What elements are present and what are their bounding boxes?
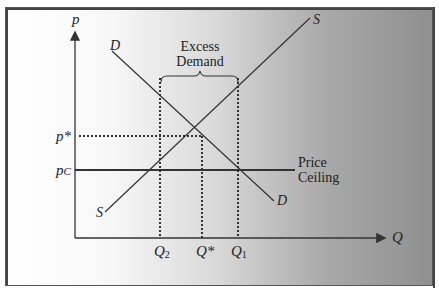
- demand-label-bottom: D: [276, 193, 287, 208]
- price-ceiling-label-line2: Ceiling: [298, 170, 339, 185]
- excess-demand-brace: [161, 71, 238, 82]
- x-axis-label: Q: [392, 229, 403, 245]
- q1-label: Q1: [231, 243, 247, 260]
- demand-label-top: D: [109, 38, 120, 53]
- y-axis-label: p: [71, 11, 80, 27]
- supply-demand-diagram: p Q D D S S p* pC Q2 Q* Q1 Excess Demand…: [0, 0, 439, 297]
- q2-label: Q2: [154, 243, 170, 260]
- supply-label-bottom: S: [96, 205, 103, 220]
- pstar-label: p*: [55, 128, 72, 144]
- excess-demand-label-line1: Excess: [181, 39, 220, 54]
- supply-label-top: S: [313, 12, 320, 27]
- pc-label: pC: [55, 162, 72, 178]
- excess-demand-label-line2: Demand: [176, 54, 223, 69]
- demand-curve: [112, 51, 274, 201]
- price-ceiling-label-line1: Price: [298, 155, 327, 170]
- qstar-label: Q*: [196, 243, 215, 259]
